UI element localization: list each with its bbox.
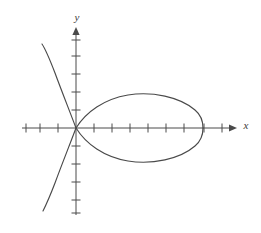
figure-root: x y xyxy=(0,0,261,233)
x-axis-label: x xyxy=(243,119,249,131)
plot-background xyxy=(0,0,261,233)
plot-svg: x y xyxy=(0,0,261,233)
y-axis-label: y xyxy=(74,11,80,23)
